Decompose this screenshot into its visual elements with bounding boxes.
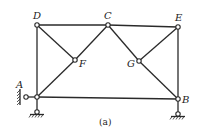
joint-A: [35, 95, 39, 99]
member-CE: [108, 25, 178, 27]
member-GE: [139, 27, 178, 61]
member-CG: [108, 25, 139, 61]
truss-members: [37, 25, 178, 99]
ground-support-A: [29, 97, 44, 118]
label-A: A: [15, 79, 23, 90]
joint-D: [35, 23, 39, 27]
joint-C: [106, 23, 110, 27]
label-F: F: [78, 58, 87, 69]
joint-B: [176, 97, 180, 101]
member-AB: [37, 97, 178, 99]
member-DF: [37, 25, 75, 60]
joint-E: [176, 25, 180, 29]
figure-caption: (a): [99, 117, 111, 127]
label-C: C: [104, 10, 112, 21]
member-AF: [37, 60, 75, 97]
truss-diagram: D C E F G A B (a): [0, 0, 199, 134]
member-GB: [139, 61, 178, 99]
label-B: B: [181, 94, 189, 105]
joint-F: [73, 58, 77, 62]
wall-support-A: [17, 89, 37, 105]
label-E: E: [174, 12, 183, 23]
label-D: D: [32, 10, 41, 21]
truss-joints: [35, 23, 180, 101]
label-G: G: [127, 58, 135, 69]
joint-G: [137, 59, 141, 63]
member-FC: [75, 25, 108, 60]
